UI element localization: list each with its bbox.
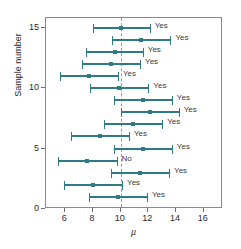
interval-contains-mu-label: Yes <box>177 142 190 152</box>
x-axis-tick-label: 12 <box>142 213 152 224</box>
interval-contains-mu-label: Yes <box>145 57 158 67</box>
interval-center-point <box>98 134 102 138</box>
interval-upper-cap <box>122 181 123 190</box>
interval-center-point <box>141 98 145 102</box>
interval-lower-cap <box>112 36 113 45</box>
interval-center-point <box>85 159 89 163</box>
interval-lower-cap <box>58 157 59 166</box>
y-axis-tick <box>41 148 45 149</box>
interval-center-point <box>116 195 120 199</box>
interval-lower-cap <box>90 84 91 93</box>
x-axis-tick <box>120 208 121 212</box>
x-axis-tick-label: 8 <box>90 213 95 224</box>
interval-contains-mu-label: Yes <box>123 69 136 79</box>
interval-center-point <box>87 74 91 78</box>
confidence-interval-plot: YesYesYesYesYesYesYesYesYesYesYesNoYesYe… <box>0 0 241 249</box>
x-axis-tick <box>175 208 176 212</box>
plot-area: YesYesYesYesYesYesYesYesYesYesYesNoYesYe… <box>45 17 222 208</box>
interval-lower-cap <box>82 60 83 69</box>
interval-lower-cap <box>64 181 65 190</box>
interval-center-point <box>113 50 117 54</box>
interval-contains-mu-label: Yes <box>175 33 188 43</box>
interval-contains-mu-label: Yes <box>177 93 190 103</box>
interval-lower-cap <box>114 96 115 105</box>
interval-center-point <box>109 62 113 66</box>
interval-center-point <box>148 110 152 114</box>
interval-contains-mu-label: Yes <box>167 117 180 127</box>
interval-upper-cap <box>170 36 171 45</box>
x-axis-label: μ <box>45 226 222 237</box>
interval-center-point <box>138 171 142 175</box>
interval-upper-cap <box>140 60 141 69</box>
interval-center-point <box>139 38 143 42</box>
x-axis-tick <box>92 208 93 212</box>
interval-lower-cap <box>121 108 122 117</box>
interval-lower-cap <box>114 145 115 154</box>
interval-center-point <box>117 86 121 90</box>
x-axis-tick-label: 14 <box>170 213 180 224</box>
interval-contains-mu-label: Yes <box>134 129 147 139</box>
interval-center-point <box>131 122 135 126</box>
interval-lower-cap <box>86 48 87 57</box>
interval-contains-mu-label: Yes <box>148 45 161 55</box>
x-axis-tick <box>147 208 148 212</box>
y-axis-tick <box>41 208 45 209</box>
x-axis-tick <box>203 208 204 212</box>
interval-center-point <box>119 26 123 30</box>
interval-contains-mu-label: Yes <box>152 190 165 200</box>
interval-upper-cap <box>169 169 170 178</box>
y-axis-tick <box>41 87 45 88</box>
x-axis-tick-label: 6 <box>62 213 67 224</box>
interval-contains-mu-label: Yes <box>153 81 166 91</box>
interval-contains-mu-label: No <box>122 154 132 164</box>
interval-center-point <box>91 183 95 187</box>
interval-lower-cap <box>60 72 61 81</box>
y-axis-tick <box>41 27 45 28</box>
interval-contains-mu-label: Yes <box>155 21 168 31</box>
interval-upper-cap <box>147 193 148 202</box>
y-axis-tick-label: 5 <box>0 142 39 153</box>
y-axis-label: Sample number <box>13 0 23 130</box>
interval-lower-cap <box>71 132 72 141</box>
interval-upper-cap <box>162 120 163 129</box>
x-axis-tick-label: 16 <box>198 213 208 224</box>
interval-lower-cap <box>89 193 90 202</box>
interval-upper-cap <box>143 48 144 57</box>
interval-contains-mu-label: Yes <box>127 178 140 188</box>
interval-upper-cap <box>117 157 118 166</box>
interval-center-point <box>141 147 145 151</box>
interval-contains-mu-label: Yes <box>184 105 197 115</box>
interval-lower-cap <box>93 24 94 33</box>
interval-upper-cap <box>172 145 173 154</box>
interval-lower-cap <box>104 120 105 129</box>
interval-upper-cap <box>172 96 173 105</box>
interval-lower-cap <box>111 169 112 178</box>
interval-upper-cap <box>148 84 149 93</box>
interval-upper-cap <box>129 132 130 141</box>
x-axis-tick <box>64 208 65 212</box>
y-axis-tick-label: 0 <box>0 203 39 214</box>
interval-upper-cap <box>150 24 151 33</box>
interval-upper-cap <box>179 108 180 117</box>
interval-contains-mu-label: Yes <box>174 166 187 176</box>
interval-upper-cap <box>118 72 119 81</box>
x-axis-tick-label: 10 <box>115 213 125 224</box>
